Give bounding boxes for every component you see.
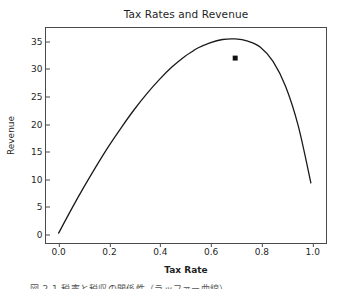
- x-tick-0.0: 0.0: [52, 243, 66, 257]
- x-tick-mark: [160, 243, 161, 247]
- chart-figure: Tax Rates and Revenue Revenue 0510152025…: [0, 0, 344, 289]
- x-tick-mark: [262, 243, 263, 247]
- y-axis-label: Revenue: [6, 27, 18, 244]
- page-caption: 図 2-1 税率と税収の関係性（ラッファー曲線）: [30, 282, 330, 289]
- x-tick-mark: [109, 243, 110, 247]
- revenue-curve-line: [59, 39, 311, 233]
- y-tick-mark: [46, 235, 50, 236]
- y-tick-mark: [46, 179, 50, 180]
- y-tick-label: 10: [31, 175, 46, 184]
- x-tick-label: 0.6: [204, 248, 218, 257]
- y-tick-10: 10: [31, 175, 46, 184]
- x-tick-label: 0.0: [52, 248, 66, 257]
- y-tick-35: 35: [31, 37, 46, 46]
- x-tick-label: 1.0: [306, 248, 320, 257]
- x-tick-0.6: 0.6: [204, 243, 218, 257]
- x-tick-mark: [313, 243, 314, 247]
- y-tick-label: 0: [37, 231, 46, 240]
- x-tick-0.4: 0.4: [153, 243, 167, 257]
- y-tick-25: 25: [31, 93, 46, 102]
- x-tick-label: 0.8: [255, 248, 269, 257]
- x-tick-label: 0.4: [153, 248, 167, 257]
- y-tick-label: 30: [31, 65, 46, 74]
- curve-svg: [46, 28, 326, 243]
- y-tick-20: 20: [31, 120, 46, 129]
- y-tick-mark: [46, 124, 50, 125]
- chart-title: Tax Rates and Revenue: [45, 8, 327, 20]
- y-tick-label: 15: [31, 148, 46, 157]
- y-tick-mark: [46, 69, 50, 70]
- y-tick-label: 25: [31, 93, 46, 102]
- y-tick-mark: [46, 152, 50, 153]
- y-tick-label: 35: [31, 37, 46, 46]
- y-tick-15: 15: [31, 148, 46, 157]
- x-tick-1.0: 1.0: [306, 243, 320, 257]
- y-tick-0: 0: [37, 231, 46, 240]
- x-tick-label: 0.2: [102, 248, 116, 257]
- plot-area: 05101520253035 0.00.20.40.60.81.0: [45, 27, 327, 244]
- y-tick-30: 30: [31, 65, 46, 74]
- y-tick-label: 5: [37, 203, 46, 212]
- x-tick-0.2: 0.2: [102, 243, 116, 257]
- y-tick-mark: [46, 207, 50, 208]
- y-tick-mark: [46, 97, 50, 98]
- marker-layer: [233, 56, 238, 61]
- y-tick-mark: [46, 41, 50, 42]
- y-tick-label: 20: [31, 120, 46, 129]
- y-tick-5: 5: [37, 203, 46, 212]
- x-tick-mark: [59, 243, 60, 247]
- x-tick-mark: [211, 243, 212, 247]
- x-tick-0.8: 0.8: [255, 243, 269, 257]
- x-axis-label: Tax Rate: [45, 265, 327, 275]
- data-point-marker: [233, 56, 238, 61]
